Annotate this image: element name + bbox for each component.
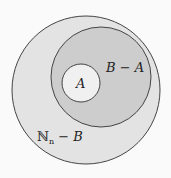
label-Nn-main: ℕ [37, 129, 49, 144]
label-Nn-rest: − B [54, 129, 83, 144]
venn-diagram: A B − A ℕn − B [0, 0, 171, 178]
label-A: A [75, 76, 85, 91]
label-B-minus-A: B − A [105, 60, 144, 75]
venn-svg: A B − A ℕn − B [0, 0, 171, 178]
label-Nn-minus-B: ℕn − B [37, 129, 83, 146]
